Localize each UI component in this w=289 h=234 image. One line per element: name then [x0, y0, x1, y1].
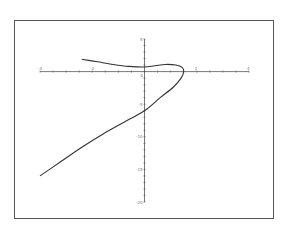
y-tick-label: -10	[136, 134, 143, 139]
y-tick-label: -5	[139, 102, 143, 107]
axes	[40, 39, 249, 202]
y-tick-label: -15	[136, 167, 143, 172]
x-tick-label: 2	[195, 66, 198, 71]
plot-area: -4-20245-5-10-15-20	[0, 0, 289, 234]
x-tick-label: 0	[141, 73, 144, 78]
y-tick-label: 5	[140, 37, 143, 42]
x-tick-label: -4	[38, 66, 42, 71]
tick-labels: -4-20245-5-10-15-20	[38, 37, 250, 205]
x-tick-label: 4	[247, 66, 250, 71]
x-tick-label: -2	[90, 66, 94, 71]
y-tick-label: -20	[136, 200, 143, 205]
curve-line	[40, 59, 184, 176]
